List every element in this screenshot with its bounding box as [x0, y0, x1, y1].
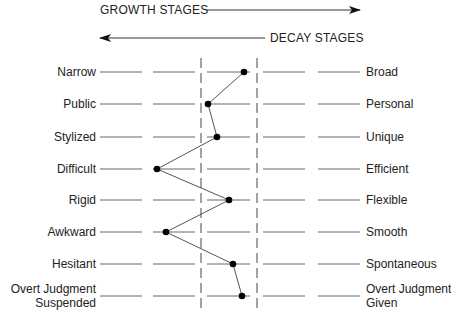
- profile-point: [214, 134, 221, 141]
- profile-point: [163, 229, 170, 236]
- profile-point: [230, 261, 237, 268]
- semantic-differential-graphic: [0, 0, 451, 318]
- profile-point: [205, 101, 212, 108]
- profile-point: [154, 166, 161, 173]
- profile-point: [226, 197, 233, 204]
- profile-point: [241, 69, 248, 76]
- profile-point: [239, 293, 246, 300]
